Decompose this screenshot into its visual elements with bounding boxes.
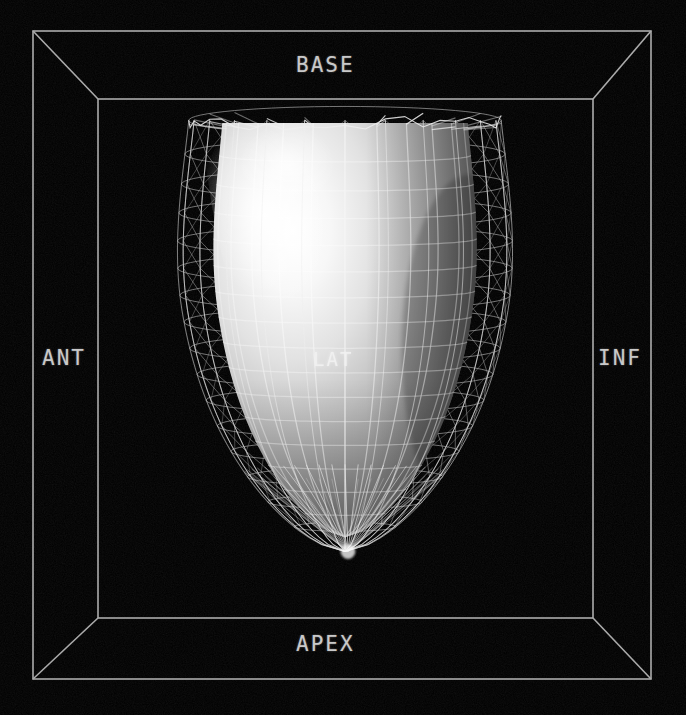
- surface-label-lat: LAT: [313, 348, 353, 370]
- axis-label-inf: INF: [598, 346, 642, 370]
- axis-label-ant: ANT: [42, 346, 86, 370]
- visualization-viewport: BASE APEX ANT INF LAT: [0, 0, 686, 715]
- axis-label-base: BASE: [296, 53, 355, 77]
- apex-node: [341, 545, 355, 559]
- axis-label-apex: APEX: [296, 632, 355, 656]
